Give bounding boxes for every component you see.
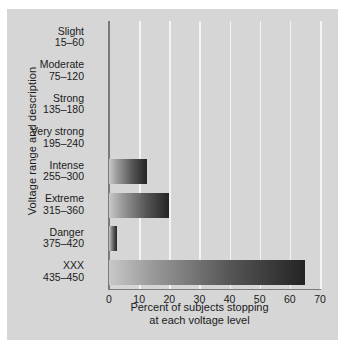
category-label-range: 255–300 [0, 171, 84, 183]
bar-row [109, 122, 320, 156]
category-label-range: 315–360 [0, 205, 84, 217]
category-label-range: 135–180 [0, 104, 84, 116]
bar-row [109, 222, 320, 256]
category-label-range: 375–420 [0, 238, 84, 250]
bar [109, 260, 305, 285]
bar-row [109, 55, 320, 89]
chart-figure: Voltage range and description Slight15–6… [7, 9, 338, 340]
category-label: Danger375–420 [0, 227, 84, 250]
bar-row [109, 189, 320, 223]
category-label-range: 75–120 [0, 71, 84, 83]
category-label-range: 435–450 [0, 272, 84, 284]
category-label: Very strong195–240 [0, 126, 84, 149]
x-axis-title-line2: at each voltage level [67, 314, 332, 327]
category-label: Intense255–300 [0, 160, 84, 183]
category-label-range: 195–240 [0, 138, 84, 150]
bar-row [109, 256, 320, 290]
category-label: Extreme315–360 [0, 193, 84, 216]
x-axis-title: Percent of subjects stopping at each vol… [67, 301, 332, 327]
bar-row [109, 21, 320, 55]
bar-row [109, 155, 320, 189]
bar [109, 159, 147, 184]
category-label: Moderate75–120 [0, 59, 84, 82]
category-label: XXX435–450 [0, 260, 84, 283]
plot-area: Slight15–60Moderate75–120Strong135–180Ve… [109, 21, 320, 289]
gridline [320, 21, 322, 289]
x-axis-title-line1: Percent of subjects stopping [67, 301, 332, 314]
category-label: Strong135–180 [0, 93, 84, 116]
bar-row [109, 88, 320, 122]
bar [109, 193, 169, 218]
bar [109, 226, 117, 251]
category-label-range: 15–60 [0, 37, 84, 49]
category-label: Slight15–60 [0, 26, 84, 49]
